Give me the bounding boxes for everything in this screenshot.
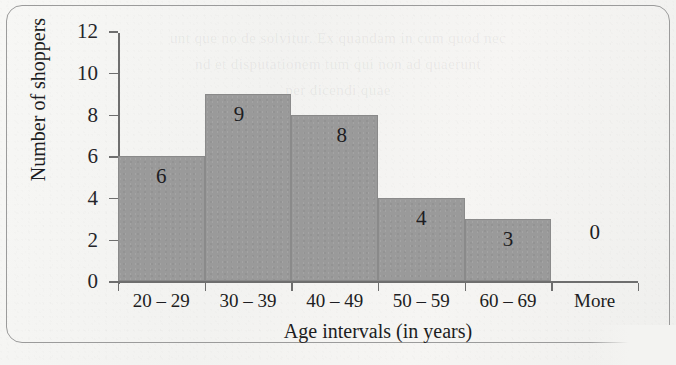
bar-value-label: 0 [551,220,638,245]
y-tick-label: 8 [88,102,99,127]
x-tick-label: 30 – 39 [205,290,292,312]
y-tick-mark [109,31,118,32]
y-tick-label: 4 [88,186,99,211]
bar-zero-slot: 0 [551,31,638,281]
x-tick-mark [638,283,639,291]
y-tick-mark [109,281,118,282]
plot-area: 024681012 698430 [118,33,638,283]
y-tick-label: 2 [88,227,99,252]
bar: 4 [378,198,465,281]
y-tick-label: 12 [77,19,98,44]
y-tick-mark [109,198,118,199]
bar-value-label: 8 [299,123,384,148]
histogram-figure: unt que no de solvitur. Ex quandam in cu… [0,0,676,365]
x-tick-label-group: 20 – 2930 – 3940 – 4950 – 5960 – 69More [118,290,638,316]
x-tick-label: 50 – 59 [378,290,465,312]
bar: 8 [291,115,378,282]
y-tick-mark [109,73,118,74]
y-tick-label: 10 [77,61,98,86]
y-tick-label: 6 [88,144,99,169]
y-tick-mark [109,156,118,157]
bar-value-label: 4 [379,206,464,231]
bar: 6 [118,156,205,281]
x-axis-title: Age intervals (in years) [118,320,638,343]
bar: 9 [205,94,292,282]
x-tick-label: 60 – 69 [465,290,552,312]
x-tick-label: 20 – 29 [118,290,205,312]
y-tick-mark [109,240,118,241]
x-tick-label: 40 – 49 [291,290,378,312]
bar-value-label: 9 [197,102,282,127]
bar: 3 [465,219,552,282]
bar-value-label: 6 [119,164,204,189]
x-tick-label: More [551,290,638,312]
y-tick-mark [109,115,118,116]
bar-value-label: 3 [466,227,551,252]
bar-group: 698430 [118,31,638,281]
y-tick-label: 0 [88,269,99,294]
y-axis-title: Number of shoppers [27,0,50,220]
